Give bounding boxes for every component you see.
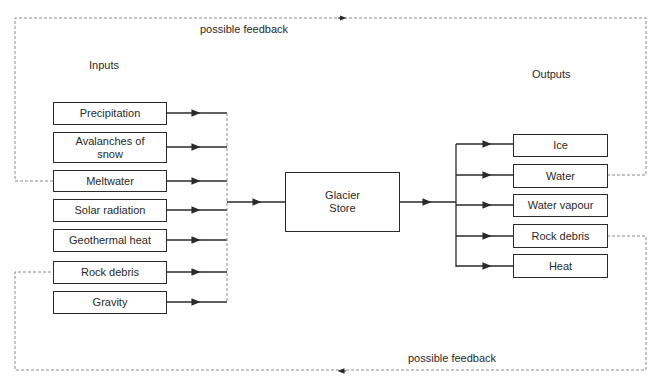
input-gravity: Gravity [53,291,167,314]
outputs-heading: Outputs [532,68,571,80]
output-label: Ice [553,139,568,152]
input-meltwater: Meltwater [53,170,167,192]
input-label: Meltwater [86,175,134,188]
output-arrows [456,144,513,267]
input-label: Solar radiation [75,204,146,217]
output-water-vapour: Water vapour [513,194,608,217]
output-label: Rock debris [531,230,589,243]
input-rock-debris: Rock debris [53,261,167,284]
input-label: Gravity [93,296,128,309]
output-label: Water vapour [528,199,594,212]
input-avalanches-of-snow: Avalanches of snow [53,132,167,163]
output-ice: Ice [513,134,608,157]
glacier-store: Glacier Store [285,172,400,232]
output-heat: Heat [513,254,608,278]
output-water: Water [513,164,608,188]
output-label: Water [546,170,575,183]
inputs-heading: Inputs [89,59,119,71]
feedback-top-label: possible feedback [200,23,288,35]
input-label: Rock debris [81,266,139,279]
input-label: Avalanches of snow [68,135,152,161]
input-precipitation: Precipitation [53,102,167,125]
input-label: Geothermal heat [69,234,151,247]
input-arrows [166,113,227,302]
input-label: Precipitation [80,107,141,120]
feedback-bottom-label: possible feedback [408,352,496,364]
glacier-store-label-1: Glacier [325,189,360,202]
output-label: Heat [549,260,572,273]
input-solar-radiation: Solar radiation [53,199,167,222]
glacier-store-label-2: Store [329,202,355,215]
output-rock-debris: Rock debris [513,224,608,248]
input-geothermal-heat: Geothermal heat [53,229,167,252]
